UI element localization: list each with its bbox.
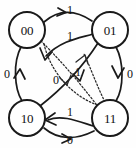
- edge-label-01-11: 0: [127, 67, 133, 81]
- node-11-label: 11: [104, 111, 116, 126]
- edge-label-00-11: 0: [53, 73, 59, 87]
- node-01-label: 01: [104, 23, 116, 38]
- edge-00-to-11: [41, 41, 96, 104]
- node-00-label: 00: [21, 23, 33, 38]
- node-11[interactable]: 11: [92, 100, 128, 136]
- edge-10-to-00: [14, 47, 25, 101]
- arrowhead-dotted-crossing: [76, 55, 88, 64]
- edge-01-to-11: [112, 47, 124, 101]
- node-10-label: 10: [21, 111, 33, 126]
- state-diagram-canvas: 00 01 10 11 1 1 0 0 1 0 1 0: [0, 0, 136, 148]
- node-00[interactable]: 00: [9, 12, 45, 48]
- edge-label-10-01: 1: [75, 65, 81, 79]
- edge-path-00-11: [41, 41, 96, 104]
- arrowhead-00-01: [57, 8, 66, 16]
- edge-label-00-01: 1: [67, 3, 73, 17]
- edge-label-01-00: 1: [67, 29, 73, 43]
- node-01[interactable]: 01: [92, 12, 128, 48]
- edge-label-10-11: 0: [67, 133, 73, 147]
- node-10[interactable]: 10: [9, 100, 45, 136]
- edge-label-11-10: 1: [67, 105, 73, 119]
- edge-label-10-00: 0: [4, 67, 10, 81]
- state-transition-graph: 00 01 10 11 1 1 0 0 1 0 1 0: [0, 0, 136, 148]
